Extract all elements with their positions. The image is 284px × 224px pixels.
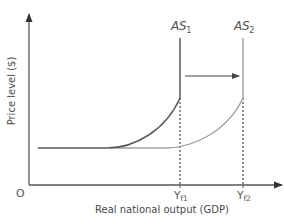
x-axis-title: Real national output (GDP) — [95, 205, 229, 215]
as2-label-sub: 2 — [249, 26, 254, 35]
origin-label: O — [16, 188, 25, 199]
as1-label-sub: 1 — [186, 26, 191, 35]
as2-label-base: AS — [234, 19, 249, 33]
yf1-label: Yf1 — [174, 190, 188, 203]
as2-label: AS2 — [234, 20, 254, 35]
yf1-label-sub: f1 — [180, 194, 187, 203]
y-axis-title: Price level ($) — [7, 55, 17, 127]
yf2-label: Yf2 — [237, 190, 251, 203]
as1-label: AS1 — [171, 20, 191, 35]
yf2-label-sub: f2 — [243, 194, 250, 203]
as1-curve — [38, 38, 180, 148]
as1-label-base: AS — [171, 19, 186, 33]
as2-curve — [110, 38, 243, 148]
as-shift-diagram: AS1 AS2 Yf1 Yf2 O Real national output (… — [0, 0, 284, 224]
